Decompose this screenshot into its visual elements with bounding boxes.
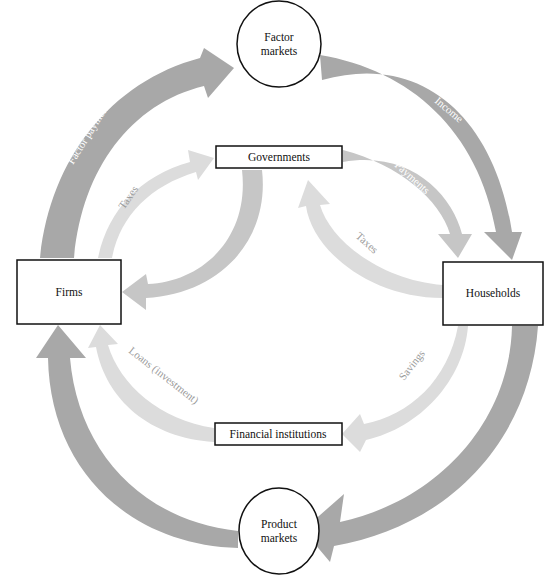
node-governments: Governments xyxy=(216,146,342,168)
flow-household-taxes: Taxes xyxy=(298,180,443,298)
circular-flow-diagram: Factor payments Income Consumption expen… xyxy=(0,0,559,578)
node-product-markets: Product markets xyxy=(239,488,319,574)
gov-payments-firms-label: Payments xyxy=(174,219,211,259)
governments-label: Governments xyxy=(248,151,310,163)
flow-savings: Savings xyxy=(342,326,468,452)
node-households: Households xyxy=(443,262,543,325)
node-firms: Firms xyxy=(17,260,121,324)
flow-loans: Loans (investment) xyxy=(88,325,214,442)
node-factor-markets: Factor markets xyxy=(237,1,321,87)
factor-markets-label-line2: markets xyxy=(261,45,298,57)
factor-markets-circle xyxy=(237,1,321,87)
product-markets-label-line2: markets xyxy=(261,532,298,544)
savings-arrow xyxy=(342,326,468,452)
factor-markets-label-line1: Factor xyxy=(264,31,294,43)
financial-institutions-label: Financial institutions xyxy=(230,428,327,440)
firms-label: Firms xyxy=(56,286,83,298)
product-markets-label-line1: Product xyxy=(261,518,298,530)
savings-label: Savings xyxy=(396,347,427,382)
product-markets-circle xyxy=(239,488,319,574)
household-taxes-label: Taxes xyxy=(354,230,381,256)
households-label: Households xyxy=(466,287,521,299)
loans-arrow xyxy=(88,325,214,442)
node-financial-institutions: Financial institutions xyxy=(215,423,342,445)
gov-payments-households-label: Payments xyxy=(393,159,433,197)
